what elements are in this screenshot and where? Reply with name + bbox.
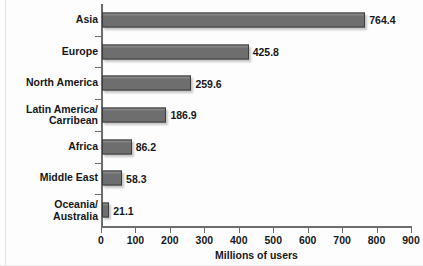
bar-wrapper: 186.9 [102,107,166,122]
bar-row: Asia764.4 [0,4,423,36]
bar-wrapper: 58.3 [102,171,122,186]
bar-highlight [103,13,364,15]
x-axis-tick [135,228,136,233]
bar-row: North America259.6 [0,67,423,99]
x-axis-title: Millions of users [101,249,412,261]
bar[interactable] [102,171,122,186]
x-axis-tick-label: 600 [299,234,317,246]
bar-highlight [103,204,108,206]
x-axis-tick [101,228,102,233]
bar-row: Africa86.2 [0,131,423,163]
bar-row: Latin America/ Carribean186.9 [0,99,423,131]
x-axis-tick-label: 0 [98,234,104,246]
category-label: Latin America/ Carribean [0,103,98,126]
bar-highlight [103,172,121,174]
x-axis-tick-label: 400 [230,234,248,246]
bar-value-label: 259.6 [195,77,221,89]
bar-highlight [103,45,248,47]
x-axis-tick [239,228,240,233]
bar[interactable] [102,139,132,154]
x-axis-tick [308,228,309,233]
x-axis-tick [377,228,378,233]
bar-value-label: 86.2 [136,141,156,153]
x-axis-tick-label: 200 [161,234,179,246]
x-axis-tick [411,228,412,233]
bar[interactable] [102,203,109,218]
x-axis-tick [170,228,171,233]
bar-wrapper: 764.4 [102,12,365,27]
bar-wrapper: 21.1 [102,203,109,218]
bar-row: Oceania/ Australia21.1 [0,194,423,226]
bar-row: Europe425.8 [0,36,423,68]
bar-wrapper: 259.6 [102,76,191,91]
bar-value-label: 425.8 [253,46,279,58]
bar-chart-figure: Asia764.4Europe425.8North America259.6La… [0,0,423,266]
category-label: Asia [0,14,98,26]
x-axis-tick [204,228,205,233]
category-label: North America [0,78,98,90]
bar-row: Middle East58.3 [0,163,423,195]
category-label: Africa [0,141,98,153]
bar-highlight [103,140,131,142]
x-axis-tick [342,228,343,233]
bar[interactable] [102,107,166,122]
bar-highlight [103,108,165,110]
bar-value-label: 186.9 [170,109,196,121]
category-label: Middle East [0,173,98,185]
bar-value-label: 764.4 [369,14,395,26]
bar-wrapper: 86.2 [102,139,132,154]
bar[interactable] [102,76,191,91]
x-axis-tick-label: 700 [333,234,351,246]
category-label: Europe [0,46,98,58]
bar-value-label: 58.3 [126,172,146,184]
x-axis-tick-label: 500 [264,234,282,246]
x-axis-tick-label: 300 [196,234,214,246]
x-axis-line [101,226,412,228]
bar[interactable] [102,12,365,27]
bar-wrapper: 425.8 [102,44,249,59]
bar-value-label: 21.1 [113,204,133,216]
x-axis-tick [273,228,274,233]
bar-highlight [103,77,190,79]
x-axis-tick-label: 100 [127,234,145,246]
category-label: Oceania/ Australia [0,199,98,222]
bar[interactable] [102,44,249,59]
x-axis-tick-label: 800 [368,234,386,246]
x-axis-tick-label: 900 [402,234,420,246]
